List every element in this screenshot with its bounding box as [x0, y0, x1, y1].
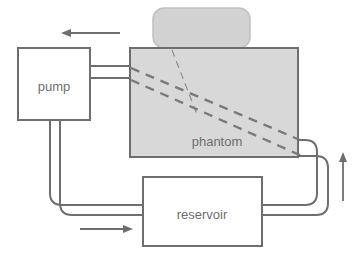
flow-phantom-diagram: pump phantom reservoir — [0, 0, 364, 263]
reservoir-label: reservoir — [177, 207, 228, 222]
transducer-shape — [153, 8, 250, 48]
flow-arrow-right — [80, 225, 133, 233]
flow-arrow-up — [339, 152, 347, 201]
pump-label: pump — [38, 79, 71, 94]
flow-arrow-left — [61, 29, 120, 37]
diagram-canvas: pump phantom reservoir — [0, 0, 364, 263]
phantom-label: phantom — [192, 134, 243, 149]
